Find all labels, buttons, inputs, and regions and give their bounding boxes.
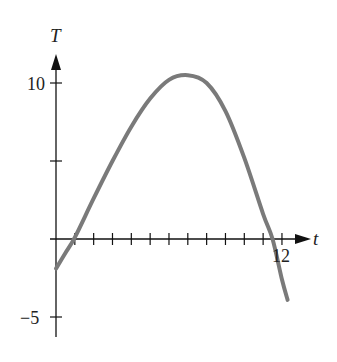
data-curve xyxy=(56,75,288,300)
x-tick-label-12: 12 xyxy=(272,246,290,266)
y-tick-label-neg5: −5 xyxy=(20,308,39,328)
y-tick-label-10: 10 xyxy=(27,74,45,94)
y-axis-arrow-icon xyxy=(51,54,61,70)
x-axis-arrow-icon xyxy=(295,234,311,244)
chart: T t 10 −5 12 xyxy=(0,0,337,362)
x-axis-label: t xyxy=(313,228,319,249)
y-axis-label: T xyxy=(50,25,62,46)
